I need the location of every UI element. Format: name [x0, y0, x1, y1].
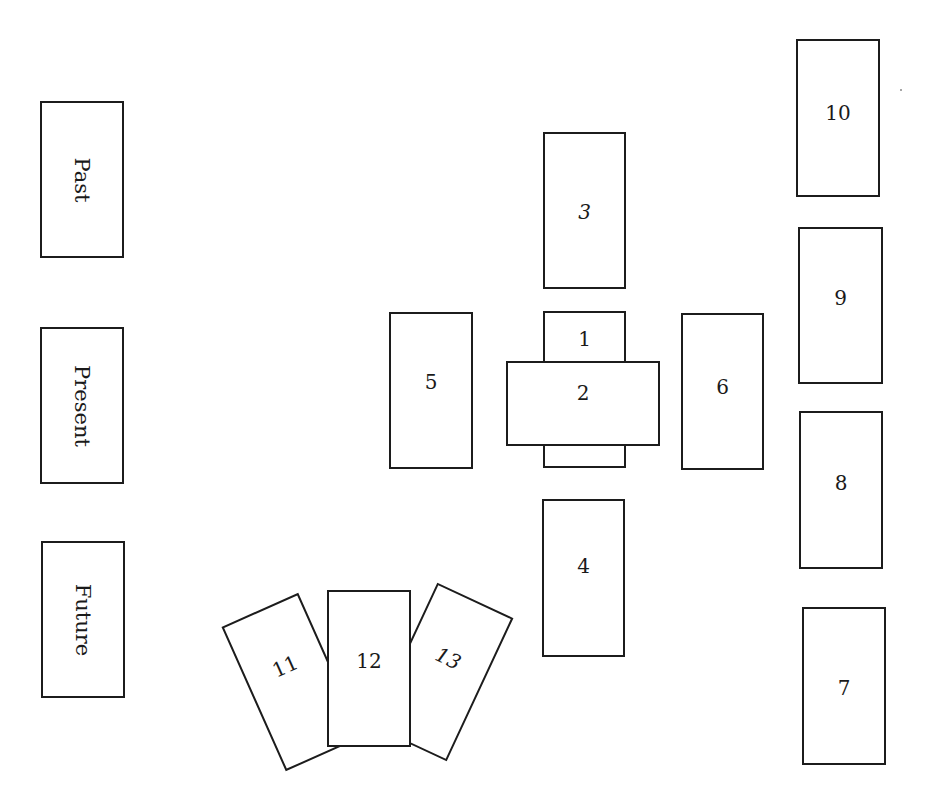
card-10: 10	[796, 39, 880, 197]
card-2-number: 2	[508, 383, 658, 403]
card-12: 12	[327, 590, 411, 747]
card-5-number: 5	[391, 372, 471, 392]
card-13-number: 13	[408, 632, 489, 684]
card-9: 9	[798, 227, 883, 384]
card-6: 6	[681, 313, 764, 470]
past-label: Past	[70, 157, 94, 202]
card-8: 8	[799, 411, 883, 569]
card-1-number: 1	[545, 329, 624, 349]
card-past: Past	[40, 101, 124, 258]
card-7-number: 7	[804, 678, 884, 698]
card-11-number: 11	[244, 641, 325, 692]
card-present: Present	[40, 327, 124, 484]
card-4: 4	[542, 499, 625, 657]
card-9-number: 9	[800, 288, 881, 308]
card-12-number: 12	[329, 651, 409, 671]
card-future: Future	[41, 541, 125, 698]
present-label: Present	[70, 365, 94, 447]
future-label: Future	[71, 583, 95, 656]
card-6-number: 6	[683, 377, 762, 397]
stray-dot	[900, 89, 902, 91]
card-3-number: 3	[545, 202, 624, 222]
card-10-number: 10	[798, 103, 878, 123]
card-8-number: 8	[801, 473, 881, 493]
card-7: 7	[802, 607, 886, 765]
card-5: 5	[389, 312, 473, 469]
card-3: 3	[543, 132, 626, 289]
card-2: 2	[506, 361, 660, 446]
card-4-number: 4	[544, 556, 623, 576]
